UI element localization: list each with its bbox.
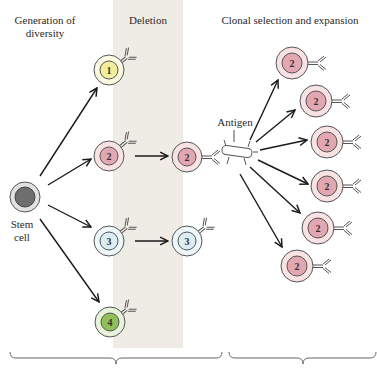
cell-1: 1 <box>94 47 137 85</box>
cell-3: 3 <box>94 217 137 256</box>
brace-left <box>10 352 222 364</box>
clone-cell-6: 2 <box>281 250 331 282</box>
svg-text:2: 2 <box>107 151 112 162</box>
clone-cell-3: 2 <box>311 126 361 158</box>
clone-cell-5: 2 <box>302 212 352 244</box>
cell-3-surviving: 3 <box>172 217 215 256</box>
svg-text:2: 2 <box>290 58 295 69</box>
svg-text:3: 3 <box>107 236 112 247</box>
expansion-arrows <box>240 80 308 247</box>
svg-text:4: 4 <box>108 317 113 328</box>
clone-cell-4: 2 <box>311 170 361 202</box>
cell-4: 4 <box>95 299 137 337</box>
stem-cell <box>10 182 40 212</box>
svg-text:2: 2 <box>325 181 330 192</box>
svg-text:1: 1 <box>107 65 112 76</box>
svg-text:2: 2 <box>325 137 330 148</box>
cell-2-surviving: 2 <box>172 142 220 172</box>
clone-cell-2: 2 <box>300 85 350 117</box>
svg-text:2: 2 <box>316 223 321 234</box>
clone-cell-1: 2 <box>276 47 326 79</box>
brace-right <box>229 352 376 364</box>
svg-text:3: 3 <box>185 236 190 247</box>
cell-2: 2 <box>94 131 137 171</box>
svg-text:2: 2 <box>295 261 300 272</box>
diversity-arrows <box>40 88 99 302</box>
svg-text:2: 2 <box>185 152 190 163</box>
svg-text:2: 2 <box>314 96 319 107</box>
